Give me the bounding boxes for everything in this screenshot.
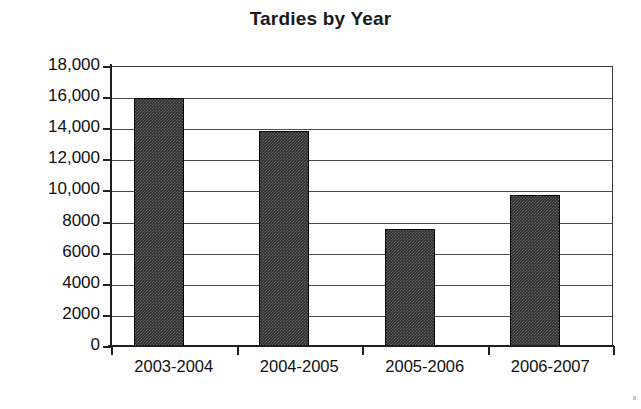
y-axis-tick-label: 18,000 bbox=[14, 55, 100, 75]
x-axis-tick-label: 2006-2007 bbox=[488, 357, 614, 376]
y-axis-tick bbox=[103, 222, 112, 224]
gridline bbox=[112, 129, 612, 130]
y-axis-tick bbox=[103, 97, 112, 99]
x-axis-line bbox=[108, 345, 614, 347]
y-axis-tick bbox=[103, 284, 112, 286]
plot-area bbox=[111, 66, 613, 346]
x-axis-tick bbox=[237, 346, 239, 355]
y-axis-tick bbox=[103, 128, 112, 130]
y-axis-tick-label: 16,000 bbox=[14, 86, 100, 106]
bar bbox=[259, 131, 309, 347]
y-axis-tick-label: 2000 bbox=[14, 304, 100, 324]
bar bbox=[385, 229, 435, 347]
y-axis-tick-labels: 18,00016,00014,00012,00010,0008000600040… bbox=[14, 0, 100, 409]
x-axis-tick bbox=[613, 346, 615, 355]
gridline bbox=[112, 160, 612, 161]
bar-chart-figure: Tardies by Year 18,00016,00014,00012,000… bbox=[0, 0, 641, 409]
y-axis-tick bbox=[103, 315, 112, 317]
x-axis-tick-label: 2004-2005 bbox=[237, 357, 363, 376]
y-axis-tick bbox=[103, 253, 112, 255]
x-axis-tick bbox=[488, 346, 490, 355]
scan-artifact-speck bbox=[633, 396, 636, 400]
x-axis-tick-label: 2005-2006 bbox=[362, 357, 488, 376]
y-axis-tick bbox=[103, 159, 112, 161]
y-axis-tick-label: 4000 bbox=[14, 273, 100, 293]
bar bbox=[134, 98, 184, 347]
y-axis-tick bbox=[103, 190, 112, 192]
x-axis-tick bbox=[362, 346, 364, 355]
y-axis-tick bbox=[103, 66, 112, 68]
bar bbox=[510, 195, 560, 347]
x-axis-tick-label: 2003-2004 bbox=[111, 357, 237, 376]
y-axis-tick-label: 14,000 bbox=[14, 117, 100, 137]
gridline bbox=[112, 98, 612, 99]
y-axis-tick-label: 12,000 bbox=[14, 148, 100, 168]
gridline bbox=[112, 191, 612, 192]
y-axis-line bbox=[110, 64, 112, 348]
y-axis-tick-label: 0 bbox=[14, 335, 100, 355]
y-axis-tick-label: 8000 bbox=[14, 211, 100, 231]
y-axis-tick-label: 6000 bbox=[14, 242, 100, 262]
y-axis-tick-label: 10,000 bbox=[14, 179, 100, 199]
x-axis-tick bbox=[111, 346, 113, 355]
